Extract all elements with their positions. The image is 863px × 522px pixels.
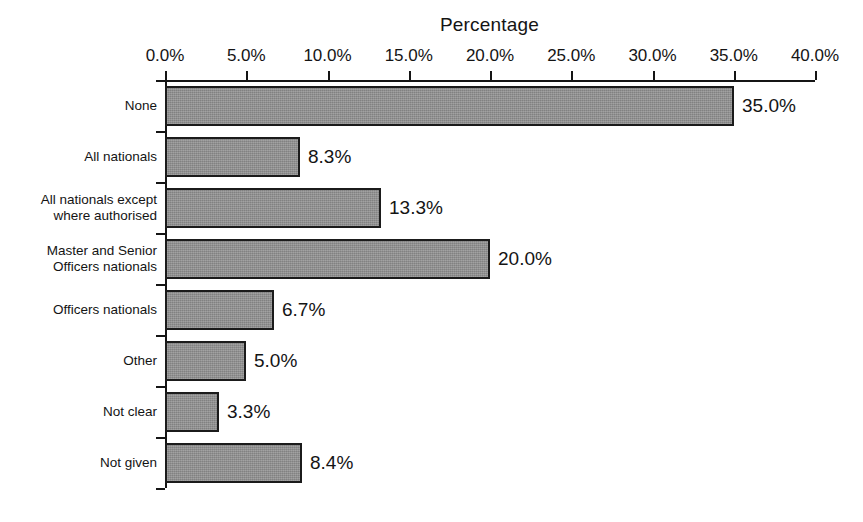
x-axis-tick — [734, 71, 736, 80]
y-axis-tick — [156, 80, 165, 82]
bar[interactable] — [165, 341, 246, 381]
x-axis-tick — [328, 71, 330, 80]
x-axis-tick — [490, 71, 492, 80]
bar[interactable] — [165, 137, 300, 177]
chart-axis-title: Percentage — [0, 14, 863, 36]
bar-value-label: 6.7% — [282, 299, 325, 321]
y-axis-tick — [156, 335, 165, 337]
bar-value-label: 3.3% — [227, 401, 270, 423]
bar-group: 8.3% — [165, 137, 815, 177]
y-axis-tick — [156, 488, 165, 490]
category-label: Other — [2, 353, 157, 369]
x-axis-tick — [653, 71, 655, 80]
y-axis-tick — [156, 182, 165, 184]
bar[interactable] — [165, 290, 274, 330]
x-axis-tick-label: 20.0% — [466, 46, 514, 66]
bar-value-label: 20.0% — [498, 248, 552, 270]
bar-group: 35.0% — [165, 86, 815, 126]
category-label: All nationals — [2, 149, 157, 165]
x-axis-tick — [571, 71, 573, 80]
bar-chart: Percentage NoneAll nationalsAll national… — [0, 0, 863, 522]
bar-group: 3.3% — [165, 392, 815, 432]
bar[interactable] — [165, 239, 490, 279]
x-axis-line — [165, 80, 815, 82]
category-label: None — [2, 98, 157, 114]
category-label: All nationals except where authorised — [2, 192, 157, 224]
y-axis-tick — [156, 437, 165, 439]
bar-value-label: 8.3% — [308, 146, 351, 168]
bar[interactable] — [165, 86, 734, 126]
bar-value-label: 13.3% — [389, 197, 443, 219]
category-label: Not clear — [2, 404, 157, 420]
category-label: Officers nationals — [2, 302, 157, 318]
x-axis-tick — [165, 71, 167, 80]
chart-axis-title-text: Percentage — [440, 14, 539, 35]
bar[interactable] — [165, 392, 219, 432]
x-axis-tick-label: 5.0% — [227, 46, 266, 66]
category-label: Master and Senior Officers nationals — [2, 243, 157, 275]
y-axis-tick — [156, 284, 165, 286]
x-axis-tick — [409, 71, 411, 80]
category-axis-labels: NoneAll nationalsAll nationals except wh… — [0, 80, 157, 488]
y-axis-tick — [156, 386, 165, 388]
category-label: Not given — [2, 455, 157, 471]
bar-value-label: 8.4% — [310, 452, 353, 474]
bar[interactable] — [165, 443, 302, 483]
y-axis-tick — [156, 131, 165, 133]
bar-group: 6.7% — [165, 290, 815, 330]
x-axis-tick-label: 35.0% — [710, 46, 758, 66]
x-axis-tick-label: 30.0% — [628, 46, 676, 66]
plot-area: 0.0%5.0%10.0%15.0%20.0%25.0%30.0%35.0%40… — [165, 80, 815, 488]
bar-value-label: 5.0% — [254, 350, 297, 372]
x-axis-tick-label: 25.0% — [547, 46, 595, 66]
x-axis-tick-label: 40.0% — [791, 46, 839, 66]
x-axis-tick-label: 15.0% — [385, 46, 433, 66]
bar-group: 8.4% — [165, 443, 815, 483]
bar-value-label: 35.0% — [742, 95, 796, 117]
bar-group: 13.3% — [165, 188, 815, 228]
bar[interactable] — [165, 188, 381, 228]
y-axis-tick — [156, 233, 165, 235]
x-axis-tick — [815, 71, 817, 80]
x-axis-tick-label: 10.0% — [303, 46, 351, 66]
bar-group: 5.0% — [165, 341, 815, 381]
x-axis-tick-label: 0.0% — [146, 46, 185, 66]
x-axis-tick — [246, 71, 248, 80]
bar-group: 20.0% — [165, 239, 815, 279]
